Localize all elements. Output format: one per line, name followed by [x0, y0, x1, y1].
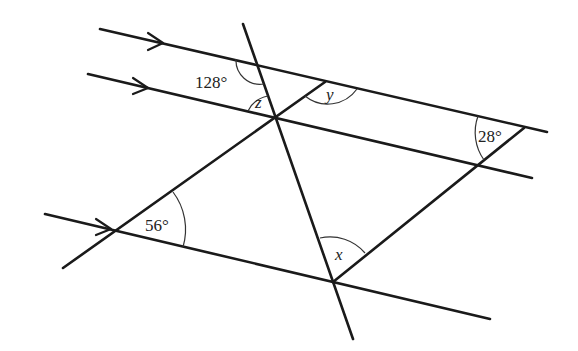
geometry-diagram: 128° z y 28° 56° x	[0, 0, 578, 351]
diagonal-line-right	[333, 128, 524, 282]
angle-label-56: 56°	[145, 216, 169, 235]
angle-label-128: 128°	[195, 73, 227, 92]
angle-label-x: x	[334, 245, 343, 264]
angle-label-28: 28°	[478, 127, 502, 146]
angle-label-y: y	[324, 85, 334, 104]
parallel-line-2	[88, 74, 532, 178]
parallel-line-1	[100, 29, 547, 132]
diagonal-line-left	[63, 82, 325, 268]
angle-label-z: z	[254, 93, 262, 112]
transversal-line	[243, 24, 353, 339]
angle-arc-56	[173, 192, 186, 247]
